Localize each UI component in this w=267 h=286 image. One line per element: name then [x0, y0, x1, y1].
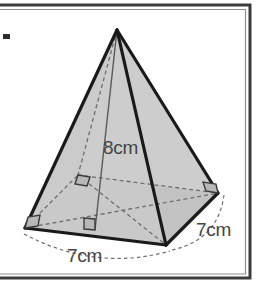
- pyramid-figure-container: 8cm 7cm 7cm: [0, 0, 267, 286]
- right-angle-height-foot: [84, 218, 95, 230]
- right-angle-base-back: [75, 175, 90, 186]
- pyramid-diagram: 8cm 7cm 7cm: [0, 0, 267, 286]
- base-front-left-label: 7cm: [67, 245, 102, 266]
- right-angle-base-left: [25, 215, 40, 228]
- height-label: 8cm: [103, 137, 138, 158]
- base-front-right-label: 7cm: [196, 219, 231, 240]
- left-edge-tick: [3, 34, 10, 39]
